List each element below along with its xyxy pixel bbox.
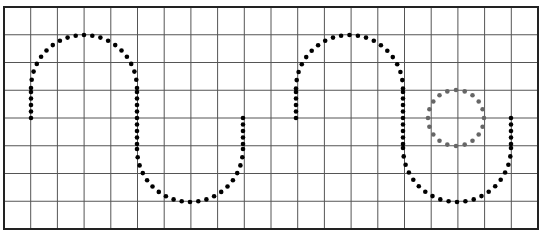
- curve-dot: [430, 194, 435, 199]
- curve-dot: [506, 162, 511, 167]
- curve-dot: [294, 109, 299, 114]
- curve-dot: [235, 171, 240, 176]
- curve-dot: [323, 39, 328, 44]
- circle-dot: [454, 144, 459, 149]
- curve-dot: [294, 86, 299, 91]
- curve-dot: [141, 171, 146, 176]
- curve-dot: [44, 48, 49, 53]
- curve-dot: [125, 55, 130, 60]
- curve-dot: [137, 163, 142, 168]
- curve-dot: [294, 116, 299, 121]
- curve-dot: [82, 33, 87, 38]
- curve-dot: [113, 43, 118, 48]
- curve-dot: [106, 39, 111, 44]
- curve-dot: [29, 109, 34, 114]
- curve-dot: [401, 103, 406, 108]
- circle-dot: [445, 142, 450, 147]
- curve-dot: [39, 55, 44, 60]
- curve-dot: [31, 69, 36, 74]
- curve-dot: [401, 122, 406, 127]
- curve-dot: [135, 116, 140, 121]
- curve-dot: [98, 35, 103, 40]
- curve-dot: [304, 55, 309, 60]
- curve-dot: [503, 170, 508, 175]
- grid: [4, 7, 538, 229]
- curve-dot: [135, 86, 140, 91]
- curve-dot: [509, 135, 514, 140]
- curve-dot: [157, 190, 162, 195]
- circle-dot: [437, 138, 442, 143]
- curve-dot: [135, 90, 140, 95]
- curve-dot: [509, 116, 514, 121]
- circle-dot: [427, 124, 432, 129]
- circle-dot: [470, 138, 475, 143]
- curve-dot: [135, 103, 140, 108]
- circle-dot: [427, 107, 432, 112]
- curve-dot: [401, 146, 406, 151]
- curve-dot: [135, 147, 140, 152]
- curve-dot: [188, 200, 193, 205]
- curve-dot: [509, 146, 514, 151]
- circle-dot: [431, 99, 436, 104]
- circle-dot: [470, 93, 475, 98]
- curve-dot: [401, 154, 406, 159]
- curve-dot: [463, 199, 468, 204]
- circle-dot: [462, 142, 467, 147]
- curve-dot: [509, 122, 514, 127]
- curve-dot: [29, 96, 34, 101]
- curve-dot: [316, 43, 321, 48]
- curve-dot: [135, 155, 140, 160]
- curve-dot: [446, 199, 451, 204]
- curve-dot: [241, 135, 246, 140]
- curve-dot: [401, 109, 406, 114]
- curve-dot: [300, 62, 305, 67]
- curve-dot: [219, 190, 224, 195]
- curve-dot: [331, 35, 336, 40]
- curve-dot: [238, 163, 243, 168]
- curve-dot: [145, 178, 150, 183]
- circle-dot: [462, 89, 467, 94]
- curve-dot: [294, 103, 299, 108]
- curve-dot: [509, 142, 514, 147]
- curve-dot: [395, 62, 400, 67]
- curve-dot: [398, 70, 403, 75]
- curve-dot: [479, 194, 484, 199]
- curve-dot: [294, 96, 299, 101]
- curve-dot: [240, 155, 245, 160]
- curve-dot: [179, 199, 184, 204]
- curve-dot: [364, 35, 369, 40]
- curve-dot: [135, 109, 140, 114]
- curve-dot: [171, 197, 176, 202]
- curve-dot: [471, 197, 476, 202]
- curve-dot: [231, 178, 236, 183]
- curve-dot: [29, 90, 34, 95]
- curve-dot: [196, 199, 201, 204]
- curve-dot: [294, 78, 299, 83]
- dotted-curve-diagram: [0, 0, 544, 234]
- curve-dot: [29, 86, 34, 91]
- circle-dot: [482, 116, 487, 121]
- curve-dot: [486, 189, 491, 194]
- circle-dot: [480, 107, 485, 112]
- curve-dot: [347, 33, 352, 38]
- curve-dot: [212, 194, 217, 199]
- curve-dot: [119, 48, 124, 53]
- circle-dot: [476, 99, 481, 104]
- curve-dot: [438, 197, 443, 202]
- curve-dot: [90, 33, 95, 38]
- circle-dot: [437, 93, 442, 98]
- curve-dot: [372, 39, 377, 44]
- curve-dot: [29, 116, 34, 121]
- curve-dot: [135, 96, 140, 101]
- curve-dot: [403, 162, 408, 167]
- curve-dot: [134, 77, 139, 82]
- curve-dot: [135, 135, 140, 140]
- circle-dot: [480, 124, 485, 129]
- curve-dot: [401, 96, 406, 101]
- curve-dot: [411, 177, 416, 182]
- curve-dot: [65, 35, 70, 40]
- curve-dot: [204, 197, 209, 202]
- curve-dot: [29, 77, 34, 82]
- curve-dot: [135, 122, 140, 127]
- curve-dot: [391, 55, 396, 60]
